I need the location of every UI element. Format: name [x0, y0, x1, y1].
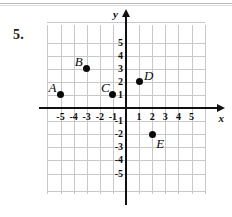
grid-line-vertical: [100, 25, 101, 194]
point-label-b: B: [75, 55, 83, 68]
x-axis-arrow-icon: [217, 104, 225, 112]
grid-line-vertical: [61, 25, 62, 194]
x-tick-label: 3: [158, 112, 172, 122]
x-tick-label: -2: [93, 112, 107, 122]
y-axis-line: [125, 16, 127, 205]
y-tick-label: 4: [109, 51, 123, 61]
point-label-c: C: [101, 81, 110, 94]
grid-line-vertical: [165, 25, 166, 194]
x-tick-label: -3: [80, 112, 94, 122]
y-tick-label: -4: [109, 155, 123, 165]
y-tick-label: 2: [109, 77, 123, 87]
point-a: [57, 91, 64, 98]
grid-line-vertical: [87, 25, 88, 194]
point-b: [83, 65, 90, 72]
y-tick-label: 5: [109, 38, 123, 48]
y-tick-label: 3: [109, 64, 123, 74]
coordinate-plane-graph: -5-4-3-2-11234554321-1-2-3-4-5 ABCDE y x: [0, 0, 232, 217]
grid-line-vertical: [152, 25, 153, 194]
y-tick-label: -3: [109, 142, 123, 152]
x-tick-label: 2: [145, 112, 159, 122]
point-label-a: A: [49, 81, 57, 94]
y-tick-label: -1: [109, 116, 123, 126]
x-axis-label: x: [219, 113, 225, 124]
y-axis-label: y: [113, 9, 118, 20]
grid-line-vertical: [205, 25, 206, 194]
point-label-d: D: [144, 69, 153, 82]
point-d: [136, 78, 143, 85]
point-label-e: E: [156, 137, 164, 150]
point-e: [149, 131, 156, 138]
y-tick-label: -2: [109, 129, 123, 139]
grid-line-vertical: [139, 25, 140, 194]
y-tick-label: -5: [109, 169, 123, 179]
x-axis-line: [39, 107, 216, 109]
x-tick-label: 4: [171, 112, 185, 122]
grid-line-vertical: [192, 25, 193, 194]
y-axis-arrow-icon: [122, 9, 130, 17]
x-tick-label: -4: [67, 112, 81, 122]
x-tick-label: 5: [185, 112, 199, 122]
grid-line-vertical: [178, 25, 179, 194]
grid-line-vertical: [47, 25, 48, 194]
x-tick-label: 1: [132, 112, 146, 122]
x-tick-label: -5: [54, 112, 68, 122]
grid-line-vertical: [74, 25, 75, 194]
